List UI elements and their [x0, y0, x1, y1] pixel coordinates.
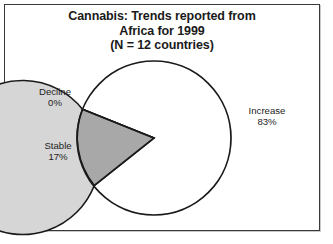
pie-label-increase-value: 83% — [236, 116, 298, 127]
pie-slice-stable[interactable] — [77, 109, 154, 185]
pie-label-decline-name: Decline — [26, 86, 84, 97]
pie-label-increase-name: Increase — [236, 105, 298, 116]
pie-label-stable: Stable 17% — [31, 140, 85, 162]
pie-label-decline-value: 0% — [26, 97, 84, 108]
pie-label-decline: Decline 0% — [26, 86, 84, 108]
pie-label-stable-name: Stable — [31, 140, 85, 151]
pie-chart-figure: Cannabis: Trends reported from Africa fo… — [0, 0, 333, 244]
pie-label-stable-value: 17% — [31, 151, 85, 162]
pie-label-increase: Increase 83% — [236, 105, 298, 127]
